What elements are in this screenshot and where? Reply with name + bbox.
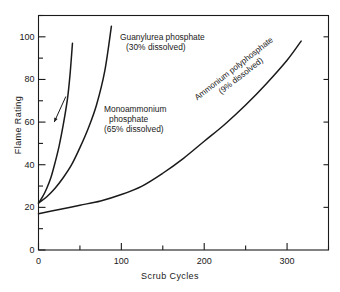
y-tick-label: 0 <box>7 245 35 255</box>
y-tick-label: 20 <box>7 202 35 212</box>
series-curve-guanylurea-phosphate <box>39 26 112 203</box>
series-curve-monoammonium-phosphate <box>39 43 73 203</box>
x-tick-label: 200 <box>197 256 212 266</box>
x-tick-label: 300 <box>280 256 295 266</box>
series-label-line3: (65% dissolved) <box>104 125 166 135</box>
x-tick-label: 0 <box>36 256 41 266</box>
y-axis-title: Flame Rating <box>13 55 23 195</box>
y-tick-label: 100 <box>7 32 35 42</box>
x-axis-ticks <box>39 243 329 250</box>
x-axis-title: Scrub Cycles <box>0 271 340 281</box>
x-tick-label: 100 <box>114 256 129 266</box>
series-label-line2: (30% dissolved) <box>120 43 205 53</box>
flame-rating-chart: 0100200300020406080100 Guanylurea phosph… <box>0 0 340 292</box>
series-label-guanylurea-phosphate: Guanylurea phosphate (30% dissolved) <box>120 33 205 53</box>
series-curve-ammonium-polyphosphate <box>39 41 302 214</box>
series-label-monoammonium-phosphate: Monoammonium phosphate (65% dissolved) <box>104 105 166 135</box>
